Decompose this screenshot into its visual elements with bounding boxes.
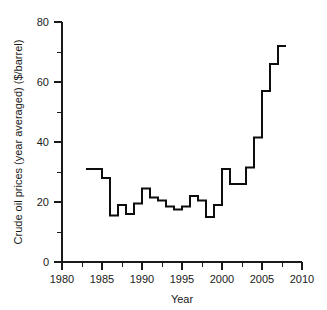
chart-figure: 80 60 40 20 0 1980 1985 1990 1995 2000 2…: [0, 0, 327, 310]
y-tick-label-80: 80: [37, 16, 49, 28]
y-tick-label-0: 0: [43, 256, 49, 268]
y-axis-title: Crude oil prices (year averaged) ($/barr…: [12, 40, 24, 245]
x-axis-major-ticks: [62, 262, 302, 270]
x-tick-label-2000: 2000: [210, 273, 234, 285]
x-tick-label-1990: 1990: [130, 273, 154, 285]
crude-oil-price-step-chart: 80 60 40 20 0 1980 1985 1990 1995 2000 2…: [0, 0, 327, 310]
y-tick-label-40: 40: [37, 136, 49, 148]
data-series-crude-oil-price: [86, 46, 286, 217]
y-axis-major-ticks: [54, 22, 62, 262]
x-tick-label-2005: 2005: [250, 273, 274, 285]
x-tick-label-1995: 1995: [170, 273, 194, 285]
x-axis-title: Year: [171, 293, 194, 305]
x-tick-label-1980: 1980: [50, 273, 74, 285]
x-tick-label-2010: 2010: [290, 273, 314, 285]
x-tick-label-1985: 1985: [90, 273, 114, 285]
y-tick-label-20: 20: [37, 196, 49, 208]
y-tick-label-60: 60: [37, 76, 49, 88]
